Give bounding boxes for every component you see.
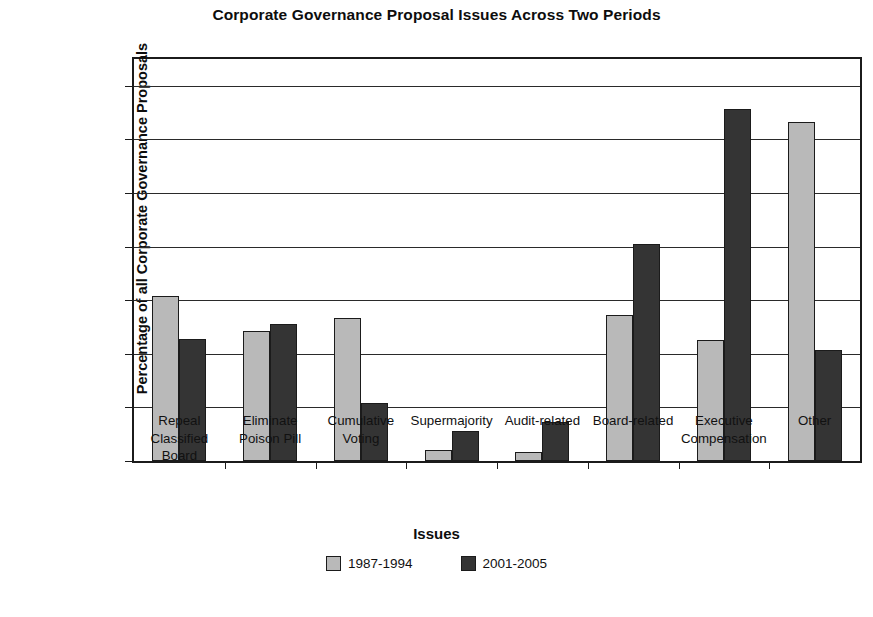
legend-label: 1987-1994	[348, 556, 413, 571]
legend-swatch-icon	[461, 556, 476, 571]
x-category-label-line: Audit-related	[497, 412, 588, 430]
x-category-label: ExecutiveCompensation	[679, 412, 770, 447]
x-category-label-line: Board-related	[588, 412, 679, 430]
y-tick-mark	[125, 300, 134, 301]
x-category-label: RepealClassifiedBoard	[134, 412, 225, 465]
x-tick-mark	[316, 461, 317, 469]
y-tick-mark	[125, 139, 134, 140]
x-category-label: Audit-related	[497, 412, 588, 430]
x-category-label: EliminatePoison Pill	[225, 412, 316, 447]
x-category-label-line: Eliminate	[225, 412, 316, 430]
bar-1987-1994-Other	[788, 122, 815, 461]
x-category-label-line: Supermajority	[406, 412, 497, 430]
legend-swatch-icon	[326, 556, 341, 571]
bar-1987-1994-Audit-related	[515, 452, 542, 461]
x-category-label: Other	[769, 412, 860, 430]
bar-chart: Corporate Governance Proposal Issues Acr…	[0, 0, 873, 617]
chart-legend: 1987-19942001-2005	[0, 556, 873, 571]
legend-item-1987-1994: 1987-1994	[326, 556, 413, 571]
x-category-label: CumulativeVoting	[316, 412, 407, 447]
x-category-label-line: Cumulative	[316, 412, 407, 430]
y-tick-mark	[125, 407, 134, 408]
bar-2001-2005-Executive Compensation	[724, 109, 751, 461]
y-tick-mark	[125, 86, 134, 87]
y-tick-mark	[125, 247, 134, 248]
x-category-label-line: Voting	[316, 430, 407, 448]
bar-2001-2005-Other	[815, 350, 842, 461]
y-tick-mark	[125, 193, 134, 194]
x-tick-mark	[679, 461, 680, 469]
plot-area: Percentage of all Corporate Governance P…	[132, 57, 862, 463]
x-category-label-line: Poison Pill	[225, 430, 316, 448]
x-category-label-line: Compensation	[679, 430, 770, 448]
y-tick-mark	[125, 354, 134, 355]
x-category-label: Board-related	[588, 412, 679, 430]
x-category-label-line: Executive	[679, 412, 770, 430]
bar-2001-2005-Supermajority	[452, 431, 479, 461]
y-tick-mark	[125, 461, 134, 462]
x-category-label: Supermajority	[406, 412, 497, 430]
x-category-label-line: Repeal	[134, 412, 225, 430]
bar-1987-1994-Board-related	[606, 315, 633, 461]
x-axis-title: Issues	[0, 525, 873, 542]
legend-label: 2001-2005	[483, 556, 548, 571]
x-category-label-line: Other	[769, 412, 860, 430]
x-tick-mark	[406, 461, 407, 469]
x-category-label-line: Board	[134, 447, 225, 465]
bars-group	[134, 59, 860, 461]
legend-item-2001-2005: 2001-2005	[461, 556, 548, 571]
x-tick-mark	[769, 461, 770, 469]
x-tick-mark	[225, 461, 226, 469]
x-tick-mark	[497, 461, 498, 469]
chart-title: Corporate Governance Proposal Issues Acr…	[0, 6, 873, 24]
bar-1987-1994-Supermajority	[425, 450, 452, 461]
x-category-label-line: Classified	[134, 430, 225, 448]
x-tick-mark	[588, 461, 589, 469]
